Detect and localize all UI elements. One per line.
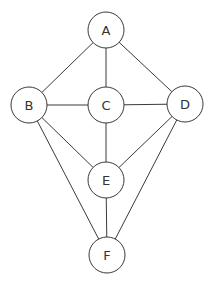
node-c: C xyxy=(88,87,124,123)
edges-layer xyxy=(29,30,185,255)
graph-diagram: ABCDEF xyxy=(0,0,211,284)
node-label: B xyxy=(25,98,34,113)
node-a: A xyxy=(88,12,124,48)
node-label: F xyxy=(103,248,110,263)
node-label: C xyxy=(101,98,110,113)
node-label: A xyxy=(102,23,111,38)
node-e: E xyxy=(88,162,124,198)
node-f: F xyxy=(89,237,125,273)
node-label: D xyxy=(180,97,190,112)
node-label: E xyxy=(102,173,110,188)
node-b: B xyxy=(11,87,47,123)
node-d: D xyxy=(167,86,203,122)
